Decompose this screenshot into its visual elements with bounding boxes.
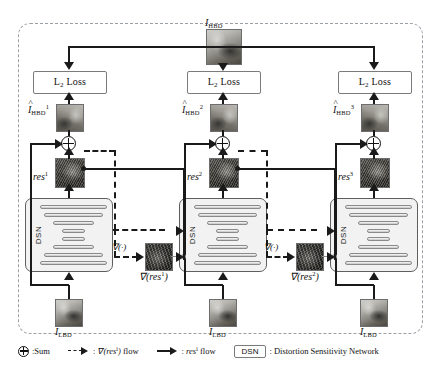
gt-arrow-right	[369, 62, 379, 70]
dsn-layer-bar	[53, 245, 95, 249]
skip-path-bottom-1	[30, 284, 69, 286]
grad-branch-vertical-2	[266, 150, 268, 230]
dsn-layer-stack-2	[194, 205, 261, 265]
grad-branch-top-2	[267, 229, 317, 231]
gt-arrow-center	[218, 63, 228, 71]
legend-item-res-flow: : resi flow	[157, 346, 216, 356]
prediction-label-3: ^IHBD3	[333, 104, 354, 117]
input-image-3	[360, 299, 388, 327]
sum-icon	[18, 346, 29, 357]
legend-sum-text: :Sum	[32, 346, 50, 356]
res-to-sum-arrow-1	[64, 147, 74, 155]
dsn-layer-stack-1	[40, 205, 107, 265]
dsn-layer-bar	[62, 229, 85, 233]
res-flow-line-1	[83, 168, 184, 170]
gradient-label-1: ∇(res1)	[139, 271, 168, 282]
dsn-layer-bar	[349, 253, 408, 257]
input-to-dsn-line-1	[68, 285, 70, 299]
input-label-1: ILBD	[55, 327, 72, 339]
input-label-2: ILBD	[209, 327, 226, 339]
solid-arrow-icon	[157, 347, 179, 355]
dsn-to-res-arrow-3	[369, 183, 379, 191]
prediction-label-1: ^IHBD1	[28, 104, 49, 117]
pred-to-loss-arrow-1	[64, 92, 74, 100]
grad-branch-from-res-1	[84, 150, 115, 152]
figure-canvas: IHBD L2 Loss L2 Loss L2 Loss ^IHBD1 ^IHB…	[0, 0, 442, 371]
prediction-image-1	[56, 104, 84, 132]
grad-branch-vertical-1	[114, 150, 116, 230]
dsn-layer-bar	[345, 205, 412, 209]
dsn-layer-bar	[345, 261, 412, 265]
dsn-layer-bar	[40, 205, 107, 209]
l2-loss-label-1: L2 Loss	[54, 76, 86, 89]
gt-arrow-left	[64, 62, 74, 70]
grad-branch-from-res-2	[238, 150, 267, 152]
legend-dsn-meaning: : Distortion Sensitivity Network	[269, 346, 378, 356]
grad-op-input-line-2	[266, 256, 289, 258]
l2-loss-label-2: L2 Loss	[208, 76, 240, 89]
gradient-to-dsn-arrow-1	[176, 252, 184, 262]
l2-loss-label-3: L2 Loss	[359, 76, 391, 89]
prediction-label-2: ^IHBD2	[182, 104, 203, 117]
skip-path-bottom-3	[335, 284, 374, 286]
skip-path-arrow-1	[55, 139, 63, 149]
input-image-2	[209, 299, 237, 327]
dsn-layer-bar	[207, 245, 249, 249]
grad-op-arrow-1	[136, 252, 144, 262]
res-flow-line-2	[237, 168, 335, 170]
input-to-dsn-arrow-3	[369, 272, 379, 280]
pred-to-loss-arrow-2	[218, 92, 228, 100]
legend-res-flow-text: : resi flow	[182, 346, 216, 356]
dsn-layer-bar	[194, 205, 261, 209]
input-to-dsn-line-3	[373, 285, 375, 299]
residual-label-1: res1	[33, 171, 48, 182]
dsn-layer-bar	[62, 237, 85, 241]
res-to-sum-arrow-3	[369, 147, 379, 155]
gradient-label-2: ∇(res2)	[290, 271, 319, 282]
dsn-layer-bar	[367, 229, 390, 233]
input-to-dsn-arrow-1	[64, 272, 74, 280]
dashed-arrow-icon	[68, 347, 90, 355]
dsn-layer-bar	[198, 253, 257, 257]
legend-gradient-flow-text: : ∇(resi) flow	[93, 346, 139, 356]
dsn-to-res-arrow-1	[64, 183, 74, 191]
pred-to-loss-arrow-3	[369, 92, 379, 100]
dsn-layer-bar	[198, 213, 257, 217]
grad-operator-label-1: ∇(·)	[112, 243, 126, 252]
gt-distribution-bus	[68, 46, 374, 48]
dsn-layer-bar	[194, 261, 261, 265]
skip-path-bottom-2	[184, 284, 223, 286]
l2-loss-box-1[interactable]: L2 Loss	[33, 71, 107, 94]
residual-label-2: res2	[187, 171, 202, 182]
dsn-to-res-arrow-2	[218, 183, 228, 191]
ground-truth-label: IHBD	[205, 18, 223, 30]
res-flow-drop-2	[334, 168, 336, 230]
skip-path-vertical-1	[30, 144, 32, 285]
l2-loss-box-2[interactable]: L2 Loss	[187, 71, 261, 94]
l2-loss-box-3[interactable]: L2 Loss	[338, 71, 412, 94]
legend: :Sum : ∇(resi) flow : resi flow DSN : Di…	[18, 340, 428, 362]
dsn-layer-bar	[40, 261, 107, 265]
grad-branch-top-1	[113, 229, 165, 231]
dsn-block-3[interactable]: DSN	[330, 198, 418, 272]
gradient-to-dsn-arrow-2	[327, 252, 335, 262]
legend-dsn-box: DSN	[234, 345, 267, 358]
residual-label-3: res3	[338, 171, 353, 182]
dsn-layer-bar	[358, 221, 400, 225]
dsn-layer-bar	[358, 245, 400, 249]
dsn-layer-bar	[367, 237, 390, 241]
grad-op-input-line-1	[114, 256, 138, 258]
legend-item-gradient-flow: : ∇(resi) flow	[68, 346, 139, 356]
dsn-layer-bar	[53, 221, 95, 225]
input-to-dsn-arrow-2	[218, 272, 228, 280]
dsn-block-2[interactable]: DSN	[179, 198, 267, 272]
dsn-layer-bar	[44, 213, 103, 217]
input-label-3: ILBD	[360, 327, 377, 339]
dsn-layer-stack-3	[345, 205, 412, 265]
res-to-sum-arrow-2	[218, 147, 228, 155]
legend-item-dsn: DSN : Distortion Sensitivity Network	[234, 345, 379, 358]
skip-path-arrow-2	[209, 139, 217, 149]
dsn-block-1[interactable]: DSN	[25, 198, 113, 272]
dsn-layer-bar	[349, 213, 408, 217]
dsn-layer-bar	[216, 237, 239, 241]
